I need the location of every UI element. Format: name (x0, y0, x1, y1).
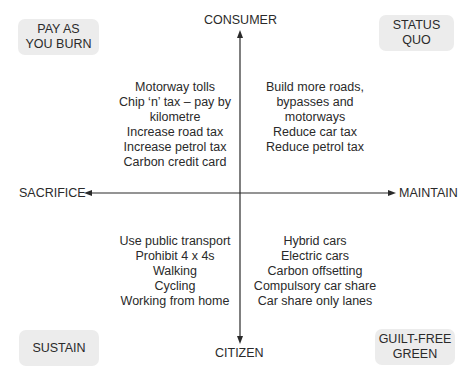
axis-label-citizen: CITIZEN (215, 346, 264, 360)
axis-label-sacrifice: SACRIFICE (19, 186, 86, 200)
quadrant-top-right: Build more roads, bypasses and motorways… (250, 80, 380, 155)
arrow-right-icon (388, 190, 396, 196)
corner-label-line: GREEN (393, 347, 437, 362)
axis-label-maintain: MAINTAIN (399, 186, 458, 200)
quadrant-item: Build more roads, (250, 80, 380, 95)
corner-box-pay-as-you-burn: PAY AS YOU BURN (18, 19, 99, 55)
corner-label-line: QUO (402, 33, 430, 48)
quadrant-bottom-right: Hybrid cars Electric cars Carbon offsett… (250, 234, 380, 309)
quadrant-item: Working from home (110, 294, 240, 309)
corner-label-line: PAY AS (37, 22, 79, 37)
quadrant-item: Walking (110, 264, 240, 279)
arrow-up-icon (237, 30, 243, 38)
corner-box-sustain: SUSTAIN (19, 330, 99, 366)
quadrant-bottom-left: Use public transport Prohibit 4 x 4s Wal… (110, 234, 240, 309)
quadrant-item: Prohibit 4 x 4s (110, 249, 240, 264)
quadrant-item: Use public transport (110, 234, 240, 249)
quadrant-item: motorways (250, 110, 380, 125)
quadrant-item: Carbon offsetting (250, 264, 380, 279)
corner-label-line: GUILT-FREE (379, 332, 452, 347)
arrow-down-icon (237, 336, 243, 344)
quadrant-item: Chip ‘n’ tax – pay by (110, 95, 240, 110)
quadrant-item: Motorway tolls (110, 80, 240, 95)
quadrant-item: Car share only lanes (250, 294, 380, 309)
quadrant-item: Hybrid cars (250, 234, 380, 249)
quadrant-item: Electric cars (250, 249, 380, 264)
corner-label-line: SUSTAIN (32, 341, 85, 356)
corner-label-line: STATUS (393, 18, 440, 33)
quadrant-item: bypasses and (250, 95, 380, 110)
quadrant-item: Cycling (110, 279, 240, 294)
quadrant-item: Compulsory car share (250, 279, 380, 294)
quadrant-item: Reduce petrol tax (250, 140, 380, 155)
corner-box-status-quo: STATUS QUO (379, 15, 454, 51)
quadrant-top-left: Motorway tolls Chip ‘n’ tax – pay by kil… (110, 80, 240, 170)
quadrant-item: Increase petrol tax (110, 140, 240, 155)
axis-label-consumer: CONSUMER (204, 13, 277, 27)
corner-box-guilt-free-green: GUILT-FREE GREEN (375, 329, 455, 365)
corner-label-line: YOU BURN (26, 37, 92, 52)
quadrant-item: Carbon credit card (110, 155, 240, 170)
quadrant-item: Reduce car tax (250, 125, 380, 140)
quadrant-item: kilometre (110, 110, 240, 125)
quadrant-item: Increase road tax (110, 125, 240, 140)
